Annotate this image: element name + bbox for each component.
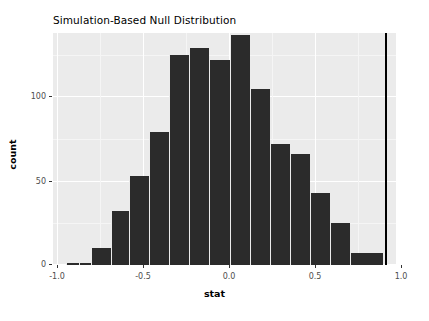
histogram-bar <box>270 144 290 265</box>
histogram-bar <box>66 263 79 265</box>
histogram-bar <box>91 248 111 265</box>
histogram-bar <box>350 253 383 265</box>
histogram-bar <box>169 55 189 265</box>
x-tick-mark-neg1 <box>57 265 58 268</box>
histogram-bar <box>149 132 169 265</box>
histogram-bar <box>129 176 149 265</box>
x-axis-title: stat <box>0 288 429 299</box>
histogram-bar <box>250 89 270 265</box>
y-tick-label-100: 100 <box>31 92 46 101</box>
x-tick-label-half: 0.5 <box>309 272 322 281</box>
x-tick-label-neg1: -1.0 <box>49 272 65 281</box>
observed-statistic-line <box>385 33 387 265</box>
histogram-bar <box>290 154 310 265</box>
histogram-bar <box>209 60 229 265</box>
y-tick-mark-100 <box>49 96 52 97</box>
histogram-bar <box>79 263 91 265</box>
x-tick-mark-half <box>315 265 316 268</box>
gridline-minor-vertical <box>358 33 359 265</box>
y-tick-label-0: 0 <box>41 260 46 269</box>
histogram-bar <box>230 35 250 265</box>
gridline-minor-vertical <box>100 33 101 265</box>
x-tick-mark-zero <box>229 265 230 268</box>
x-tick-mark-neghalf <box>143 265 144 268</box>
histogram-bar <box>330 223 350 265</box>
chart-title: Simulation-Based Null Distribution <box>53 14 236 26</box>
histogram-bar <box>310 193 330 265</box>
plot-panel <box>53 33 396 265</box>
y-tick-label-50: 50 <box>36 177 46 186</box>
x-tick-label-neghalf: -0.5 <box>135 272 151 281</box>
gridline-minor-horizontal <box>53 55 396 56</box>
histogram-bar <box>189 48 209 265</box>
chart-container: Simulation-Based Null Distribution 0 50 … <box>0 0 429 321</box>
x-tick-label-zero: 0.0 <box>223 272 236 281</box>
y-tick-mark-50 <box>49 181 52 182</box>
gridline-major-vertical-neg1 <box>57 33 58 265</box>
x-tick-label-one: 1.0 <box>395 272 408 281</box>
y-tick-mark-0 <box>49 264 52 265</box>
x-tick-mark-one <box>401 265 402 268</box>
y-axis-title: count <box>7 125 18 185</box>
histogram-bar <box>111 211 129 265</box>
